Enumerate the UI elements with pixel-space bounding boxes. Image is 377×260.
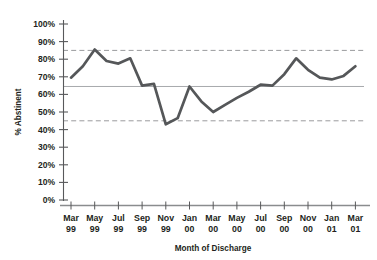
y-tick-label-20: 20%: [38, 160, 55, 170]
x-tick-label-year-0: 99: [66, 224, 76, 234]
x-tick-label-year-6: 00: [208, 224, 218, 234]
x-tick-label-year-3: 99: [137, 224, 147, 234]
x-tick-label-month-5: Jan: [182, 213, 197, 223]
x-tick-label-month-12: Mar: [348, 213, 364, 223]
x-axis: Mar 99 May 99 Jul 99 Sep 99 Nov 99 Jan 0…: [60, 202, 370, 235]
y-tick-label-30: 30%: [38, 142, 55, 152]
x-tick-label-year-10: 00: [303, 224, 313, 234]
y-axis: 100% 90% 80% 70% 60% 50% 40% 30% 20% 10%…: [33, 19, 68, 205]
chart-container: 100% 90% 80% 70% 60% 50% 40% 30% 20% 10%…: [0, 0, 377, 260]
y-tick-label-90: 90%: [38, 37, 55, 47]
x-tick-label-year-4: 99: [161, 224, 171, 234]
x-tick-label-year-8: 00: [256, 224, 266, 234]
abstinence-control-chart: 100% 90% 80% 70% 60% 50% 40% 30% 20% 10%…: [0, 0, 377, 260]
x-tick-label-month-0: Mar: [63, 213, 79, 223]
y-tick-label-80: 80%: [38, 54, 55, 64]
x-tick-label-month-9: Sep: [276, 213, 293, 223]
y-tick-label-40: 40%: [38, 125, 55, 135]
x-tick-label-month-10: Nov: [300, 213, 317, 223]
x-tick-label-month-3: Sep: [134, 213, 151, 223]
x-tick-label-month-6: Mar: [205, 213, 221, 223]
x-tick-label-year-11: 01: [327, 224, 337, 234]
x-tick-label-year-5: 00: [185, 224, 195, 234]
x-tick-label-month-8: Jul: [254, 213, 267, 223]
x-tick-label-month-2: Jul: [112, 213, 125, 223]
y-tick-label-70: 70%: [38, 72, 55, 82]
x-tick-label-year-12: 01: [351, 224, 361, 234]
y-tick-label-100: 100%: [33, 19, 55, 29]
x-tick-label-month-4: Nov: [157, 213, 174, 223]
y-tick-label-10: 10%: [38, 177, 55, 187]
x-tick-label-year-9: 00: [279, 224, 289, 234]
x-tick-label-year-2: 99: [114, 224, 124, 234]
x-tick-label-month-7: May: [228, 213, 245, 223]
x-tick-label-month-1: May: [86, 213, 103, 223]
x-axis-title: Month of Discharge: [175, 244, 252, 253]
y-tick-label-60: 60%: [38, 89, 55, 99]
x-tick-label-year-7: 00: [232, 224, 242, 234]
y-axis-title: % Abstinent: [14, 88, 23, 135]
x-tick-label-month-11: Jan: [324, 213, 339, 223]
y-tick-label-0: 0%: [43, 195, 56, 205]
x-tick-label-year-1: 99: [90, 224, 100, 234]
y-tick-label-50: 50%: [38, 107, 55, 117]
